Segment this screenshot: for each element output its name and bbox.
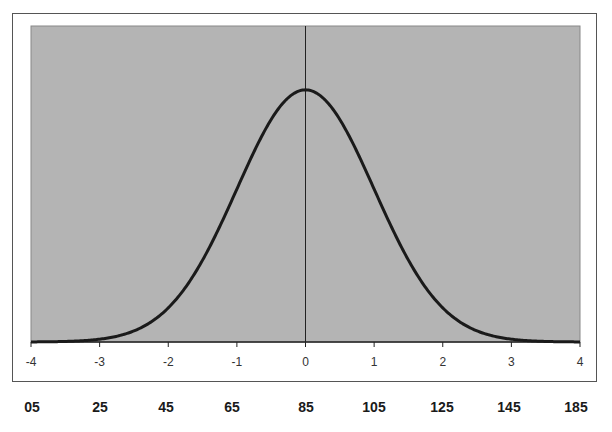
x-tick-label: 4 (577, 355, 584, 369)
x-tick-label: -3 (94, 355, 105, 369)
score-label: 45 (158, 399, 174, 415)
score-label: 25 (92, 399, 108, 415)
x-tick-label: -2 (163, 355, 174, 369)
x-tick-label: 2 (439, 355, 446, 369)
x-tick-label: 1 (371, 355, 378, 369)
x-tick-label: 3 (508, 355, 515, 369)
score-label: 05 (24, 399, 40, 415)
x-axis-ticks: -4-3-2-101234 (26, 342, 584, 369)
score-label: 105 (362, 399, 385, 415)
score-label: 85 (298, 399, 314, 415)
normal-curve-chart: -4-3-2-101234 (0, 0, 612, 432)
x-tick-label: -4 (26, 355, 37, 369)
score-label: 185 (564, 399, 587, 415)
x-tick-label: 0 (302, 355, 309, 369)
x-tick-label: -1 (232, 355, 243, 369)
score-label: 125 (430, 399, 453, 415)
score-label: 145 (497, 399, 520, 415)
score-label: 65 (224, 399, 240, 415)
